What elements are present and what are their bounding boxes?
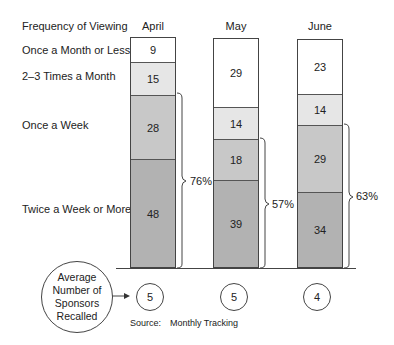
sponsors-may: 5 — [220, 283, 248, 311]
sponsors-june: 4 — [303, 283, 331, 311]
month-may: May — [213, 20, 259, 32]
brace-june — [343, 123, 355, 270]
segment-once-a-week: 28 — [131, 95, 175, 159]
segment-2-3-times: 14 — [214, 107, 258, 139]
pct-april: 76% — [190, 175, 212, 187]
row-label-2-3-times: 2–3 Times a Month — [22, 70, 116, 82]
brace-may — [259, 137, 271, 270]
segment-twice-a-week: 34 — [298, 192, 342, 267]
sponsors-april: 5 — [136, 283, 164, 311]
baseline — [116, 268, 356, 269]
segment-2-3-times: 14 — [298, 94, 342, 125]
segment-once-a-week: 18 — [214, 139, 258, 180]
row-label-once-a-month: Once a Month or Less — [22, 44, 130, 56]
row-label-once-a-week: Once a Week — [22, 119, 88, 131]
label-line: Sponsors — [55, 297, 99, 310]
label-line: Average — [58, 271, 97, 284]
bar-june: 23 14 29 34 — [297, 39, 343, 268]
source-value: Monthly Tracking — [170, 318, 238, 328]
bar-may: 29 14 18 39 — [213, 38, 259, 268]
pct-may: 57% — [272, 198, 294, 210]
row-label-twice-a-week: Twice a Week or More — [22, 203, 131, 215]
segment-twice-a-week: 39 — [214, 180, 258, 267]
segment-twice-a-week: 48 — [131, 159, 175, 267]
pct-june: 63% — [356, 190, 378, 202]
segment-2-3-times: 15 — [131, 62, 175, 95]
label-line: Recalled — [57, 310, 98, 323]
source-label: Source: — [130, 318, 161, 328]
month-june: June — [297, 20, 343, 32]
arrow-right-icon — [112, 291, 132, 301]
brace-april — [176, 92, 188, 270]
frequency-header: Frequency of Viewing — [22, 20, 128, 32]
label-line: Number of — [52, 284, 101, 297]
segment-once-a-month: 23 — [298, 40, 342, 94]
bar-april: 9 15 28 48 — [130, 37, 176, 268]
segment-once-a-month: 29 — [214, 39, 258, 107]
segment-once-a-month: 9 — [131, 38, 175, 62]
segment-once-a-week: 29 — [298, 125, 342, 192]
sponsors-recalled-label: Average Number of Sponsors Recalled — [41, 261, 113, 333]
month-april: April — [130, 20, 176, 32]
